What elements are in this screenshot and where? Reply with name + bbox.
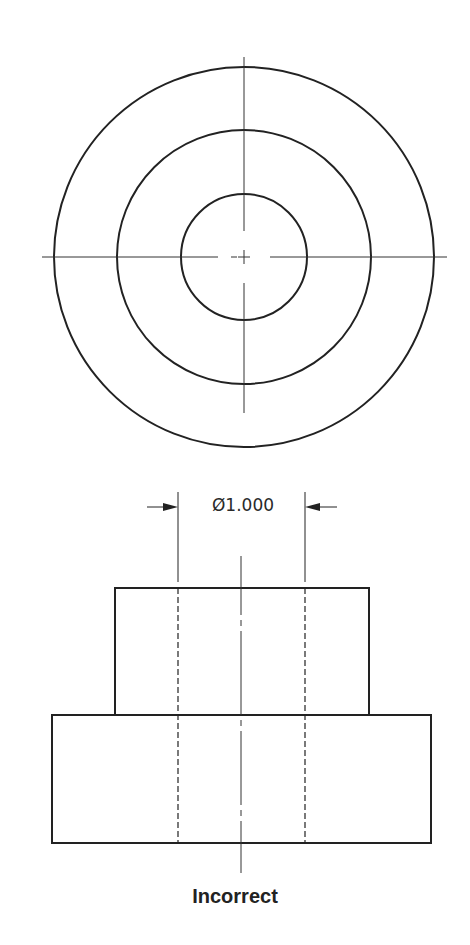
upper-block bbox=[115, 588, 369, 715]
drawing-canvas bbox=[0, 0, 470, 945]
caption: Incorrect bbox=[0, 885, 470, 908]
center-mark bbox=[42, 57, 447, 413]
diameter-dimension-label: Ø1.000 bbox=[183, 495, 303, 515]
arrow-left-icon bbox=[305, 503, 320, 511]
arrow-right-icon bbox=[163, 503, 178, 511]
top-view bbox=[42, 57, 447, 447]
front-view bbox=[52, 556, 431, 873]
